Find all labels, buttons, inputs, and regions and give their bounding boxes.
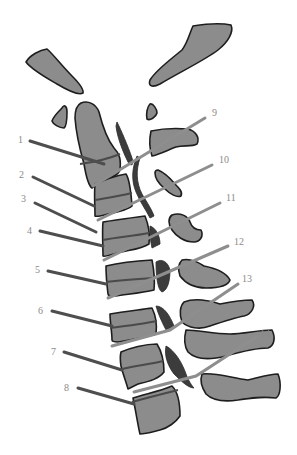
label-6: 6: [38, 305, 43, 316]
label-7: 7: [51, 346, 56, 357]
label-13: 13: [242, 273, 252, 284]
leader-line-8: [78, 388, 134, 404]
c6-facet-shadow: [156, 306, 174, 330]
c4-spinous-process: [169, 214, 202, 242]
occipital-fragment-right: [149, 24, 231, 86]
occipital-fragment-left: [26, 49, 83, 94]
label-11: 11: [226, 192, 236, 203]
leader-line-2: [33, 177, 94, 206]
label-9: 9: [212, 107, 217, 118]
vertebra-c7: [120, 344, 164, 389]
label-5: 5: [35, 264, 40, 275]
label-12: 12: [234, 236, 244, 247]
label-8: 8: [64, 382, 69, 393]
c2-spinous-process: [150, 129, 198, 156]
leader-line-6: [52, 311, 112, 326]
vertebra-t1: [133, 386, 180, 434]
label-10: 10: [219, 154, 229, 165]
spinal-canal-line: [133, 156, 154, 218]
leader-line-7: [64, 352, 122, 370]
leader-line-3: [35, 203, 96, 232]
label-3: 3: [21, 193, 26, 204]
spine-diagram: 1 2 3 4 5 6 7 8 9 10 11 12 13 14: [0, 0, 297, 455]
label-4: 4: [27, 225, 32, 236]
atlas-posterior-tubercle: [147, 104, 157, 120]
leader-line-4: [40, 231, 103, 246]
label-2: 2: [19, 169, 24, 180]
leader-line-5: [48, 271, 106, 284]
t1-spinous-process: [201, 374, 280, 401]
atlas-anterior-arch: [52, 106, 67, 128]
label-1: 1: [18, 134, 23, 145]
label-14: 14: [260, 328, 270, 339]
diagram-canvas: 1 2 3 4 5 6 7 8 9 10 11 12 13 14: [0, 0, 297, 455]
